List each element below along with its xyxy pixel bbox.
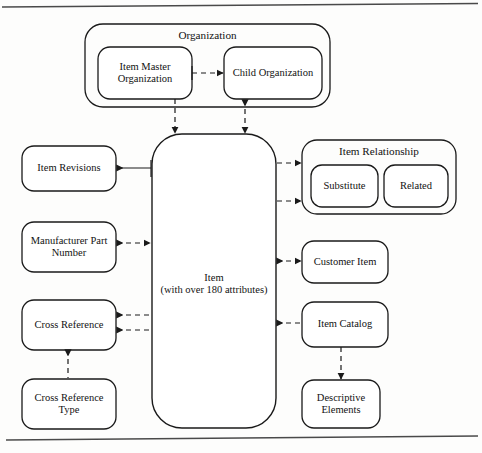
group-label-organization: Organization (85, 29, 330, 41)
node-substitute-box (311, 165, 378, 207)
diagram-canvas: Organization Item Master Organization Ch… (0, 0, 482, 453)
page-rule-bottom (6, 436, 478, 440)
diagram-vector-layer (0, 0, 482, 453)
node-cross-reference-box (22, 300, 116, 350)
node-item-box (152, 134, 276, 428)
node-child-organization-box (224, 47, 322, 99)
node-item-master-organization-box (98, 47, 192, 99)
page-rule-top (2, 4, 478, 8)
node-manufacturer-part-number-box (22, 222, 116, 272)
node-descriptive-elements-box (302, 380, 380, 428)
node-item-catalog-box (302, 302, 388, 347)
node-customer-item-box (302, 241, 388, 283)
edge-imo-to-child-org (192, 66, 223, 80)
node-related-box (384, 165, 448, 207)
group-label-item-relationship: Item Relationship (302, 145, 456, 157)
edge-item-revisions-to-item (117, 160, 151, 177)
node-item-revisions-box (22, 146, 116, 191)
node-cross-reference-type-box (22, 379, 116, 429)
